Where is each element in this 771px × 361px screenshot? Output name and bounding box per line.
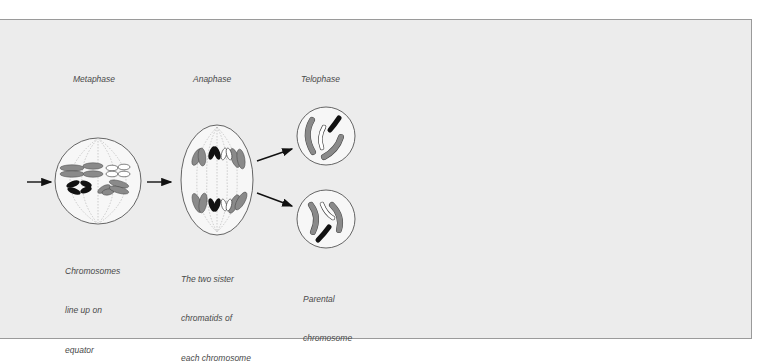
- arrow-to-telophase-upper-icon: [257, 149, 292, 161]
- telophase-nucleus-lower: [297, 190, 355, 248]
- anaphase-cell: [181, 125, 253, 235]
- stage-label-telophase: Telophase: [301, 74, 340, 84]
- arrow-to-telophase-lower-icon: [257, 193, 292, 206]
- telophase-nucleus-upper: [297, 107, 355, 165]
- stage-label-anaphase: Anaphase: [193, 74, 231, 84]
- stage-label-metaphase: Metaphase: [73, 74, 115, 84]
- caption-metaphase: Chromosomes line up on equator of spindl…: [65, 238, 120, 361]
- caption-telophase: Parental chromosome number is maintained…: [303, 266, 355, 361]
- metaphase-cell: [55, 138, 141, 224]
- caption-anaphase: The two sister chromatids of each chromo…: [181, 246, 251, 361]
